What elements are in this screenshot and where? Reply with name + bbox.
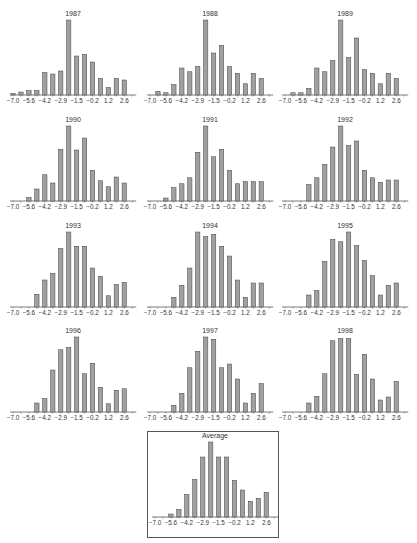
- histogram-bar: [354, 246, 358, 308]
- histogram-bar: [346, 339, 350, 413]
- histogram-bar: [338, 339, 342, 413]
- histogram-bar: [323, 261, 327, 307]
- histogram-bar: [323, 164, 327, 201]
- x-tick-label: 1.2: [241, 309, 250, 316]
- x-tick-label: −1.5: [342, 414, 355, 421]
- x-tick-label: 1.2: [104, 97, 113, 104]
- histogram-bar: [98, 276, 102, 307]
- x-tick-label: −4.2: [39, 97, 52, 104]
- x-tick-label: −1.5: [342, 97, 355, 104]
- histogram-bar: [90, 170, 94, 201]
- x-tick-label: −2.9: [326, 414, 339, 421]
- histogram-bar: [251, 283, 255, 307]
- x-tick-label: −7.0: [279, 414, 292, 421]
- x-tick-label: −5.6: [160, 309, 173, 316]
- histogram-bar: [114, 390, 118, 412]
- x-tick-label: −7.0: [144, 97, 157, 104]
- x-tick-label: −0.2: [358, 97, 371, 104]
- x-tick-label: −0.2: [358, 414, 371, 421]
- histogram-bar: [235, 73, 239, 95]
- histogram-bar: [235, 379, 239, 412]
- x-tick-label: −5.6: [295, 309, 308, 316]
- histogram-bar: [291, 93, 295, 95]
- x-tick-label: −2.9: [326, 309, 339, 316]
- histogram-bar: [211, 234, 215, 307]
- x-tick-label: −2.9: [54, 414, 67, 421]
- x-tick-label: −2.9: [54, 203, 67, 210]
- histogram-bar: [98, 79, 102, 96]
- histogram-bar: [307, 403, 311, 412]
- histogram-bar: [211, 53, 215, 95]
- histogram-plot: −7.0−5.6−4.2−2.9−1.5−0.21.22.6: [8, 116, 138, 216]
- histogram-bar: [188, 368, 192, 412]
- x-tick-label: 2.6: [392, 414, 401, 421]
- x-tick-label: −1.5: [342, 203, 355, 210]
- x-tick-label: −7.0: [7, 203, 20, 210]
- x-tick-label: −4.2: [176, 414, 189, 421]
- x-tick-label: −4.2: [39, 414, 52, 421]
- histogram-plot: −7.0−5.6−4.2−2.9−1.5−0.21.22.6: [8, 327, 138, 427]
- histogram-bar: [243, 182, 247, 202]
- histogram-bar: [82, 55, 86, 96]
- histogram-bar: [106, 187, 110, 201]
- histogram-bar: [323, 374, 327, 412]
- histogram-bar: [82, 138, 86, 201]
- histogram-bar: [51, 183, 55, 201]
- histogram-panel-1994: 1994−7.0−5.6−4.2−2.9−1.5−0.21.22.6: [145, 222, 275, 322]
- x-tick-label: 2.6: [392, 203, 401, 210]
- histogram-bar: [378, 182, 382, 201]
- histogram-bar: [378, 295, 382, 307]
- x-tick-label: −5.6: [23, 203, 36, 210]
- x-tick-label: −5.6: [23, 309, 36, 316]
- x-tick-label: −4.2: [176, 203, 189, 210]
- histogram-bar: [35, 294, 39, 307]
- x-tick-label: −0.2: [223, 309, 236, 316]
- histogram-bar: [122, 389, 126, 412]
- histogram-bar: [203, 126, 207, 201]
- histogram-bar: [362, 261, 366, 308]
- x-tick-label: 2.6: [120, 203, 129, 210]
- x-tick-label: −7.0: [144, 414, 157, 421]
- histogram-bar: [394, 79, 398, 96]
- histogram-panel-1992: 1992−7.0−5.6−4.2−2.9−1.5−0.21.22.6: [280, 116, 410, 216]
- histogram-panel-1998: 1998−7.0−5.6−4.2−2.9−1.5−0.21.22.6: [280, 327, 410, 427]
- histogram-bar: [386, 397, 390, 412]
- x-tick-label: −2.9: [326, 97, 339, 104]
- x-tick-label: −2.9: [191, 97, 204, 104]
- x-tick-label: 1.2: [104, 203, 113, 210]
- x-tick-label: 2.6: [120, 309, 129, 316]
- histogram-bar: [354, 375, 358, 413]
- histogram-bar: [203, 337, 207, 412]
- histogram-bar: [346, 232, 350, 307]
- histogram-bar: [35, 403, 39, 412]
- histogram-bar: [315, 291, 319, 308]
- x-tick-label: −7.0: [144, 203, 157, 210]
- x-tick-label: 2.6: [120, 414, 129, 421]
- histogram-bar: [172, 188, 176, 202]
- histogram-bar: [354, 38, 358, 95]
- histogram-bar: [227, 256, 231, 307]
- histogram-plot: −7.0−5.6−4.2−2.9−1.5−0.21.22.6: [145, 327, 275, 427]
- x-tick-label: −1.5: [70, 203, 83, 210]
- histogram-plot: −7.0−5.6−4.2−2.9−1.5−0.21.22.6: [280, 222, 410, 322]
- histogram-bar: [394, 180, 398, 201]
- histogram-bar: [370, 73, 374, 95]
- histogram-bar: [251, 73, 255, 95]
- histogram-bar: [227, 170, 231, 201]
- histogram-bar: [378, 400, 382, 412]
- histogram-panel-1991: 1991−7.0−5.6−4.2−2.9−1.5−0.21.22.6: [145, 116, 275, 216]
- histogram-bar: [259, 283, 263, 307]
- x-tick-label: −7.0: [279, 97, 292, 104]
- histogram-bar: [19, 92, 23, 95]
- x-tick-label: −0.2: [86, 309, 99, 316]
- histogram-panel-1993: 1993−7.0−5.6−4.2−2.9−1.5−0.21.22.6: [8, 222, 138, 322]
- x-tick-label: −0.2: [358, 203, 371, 210]
- histogram-bar: [172, 85, 176, 96]
- histogram-bar: [386, 285, 390, 307]
- histogram-bar: [307, 185, 311, 202]
- histogram-bar: [82, 246, 86, 307]
- x-tick-label: 2.6: [392, 309, 401, 316]
- histogram-panel-1990: 1990−7.0−5.6−4.2−2.9−1.5−0.21.22.6: [8, 116, 138, 216]
- histogram-bar: [259, 384, 263, 413]
- histogram-bar: [98, 181, 102, 201]
